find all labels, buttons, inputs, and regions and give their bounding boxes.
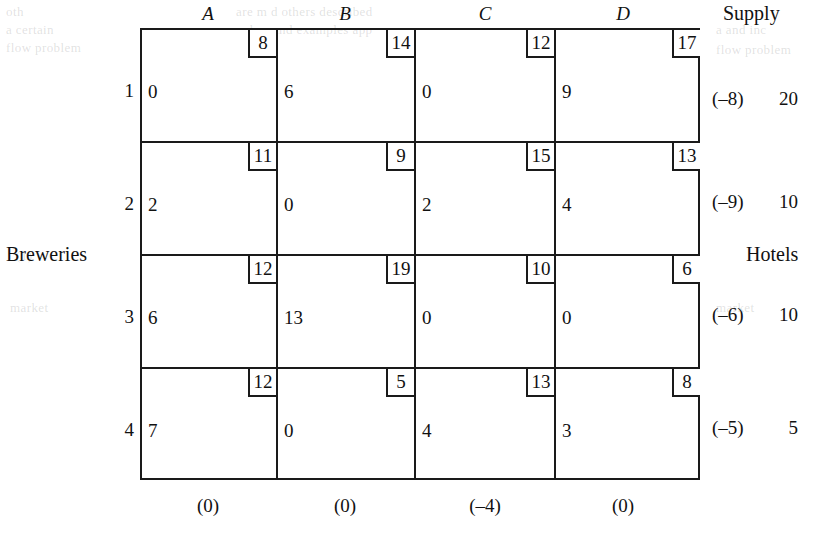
cost-box-1D: 17 <box>672 30 700 58</box>
cost-box-2B: 9 <box>386 143 414 171</box>
tableau-cell-1A[interactable]: 80 <box>142 30 276 141</box>
tableau-cell-3D[interactable]: 60 <box>556 256 700 367</box>
tableau-cell-3B[interactable]: 1913 <box>278 256 414 367</box>
transportation-tableau: 8014612017911290152134126191310060127501… <box>140 28 700 480</box>
cost-box-3B: 19 <box>386 256 414 284</box>
allocation-3C: 0 <box>422 308 432 328</box>
column-dual-C: (–4) <box>450 495 520 517</box>
allocation-3A: 6 <box>148 308 158 328</box>
allocation-4C: 4 <box>422 421 432 441</box>
column-dual-A: (0) <box>178 495 238 517</box>
supply-header: Supply <box>723 2 780 25</box>
supply-value-3: 10 <box>768 304 798 326</box>
tableau-cell-1B[interactable]: 146 <box>278 30 414 141</box>
cost-box-3D: 6 <box>672 256 700 284</box>
tableau-cell-2D[interactable]: 134 <box>556 143 700 254</box>
allocation-4B: 0 <box>284 421 294 441</box>
hotels-label: Hotels <box>746 243 798 266</box>
cost-box-2D: 13 <box>672 143 700 171</box>
supply-value-1: 20 <box>768 88 798 110</box>
column-header-B: B <box>315 3 375 25</box>
allocation-2B: 0 <box>284 195 294 215</box>
column-dual-B: (0) <box>315 495 375 517</box>
cost-box-4A: 12 <box>248 369 276 397</box>
tableau-cell-4B[interactable]: 50 <box>278 369 414 482</box>
supply-value-4: 5 <box>768 417 798 439</box>
cost-box-1A: 8 <box>248 30 276 58</box>
row-dual-4: (–5) <box>712 417 760 439</box>
tableau-cell-2B[interactable]: 90 <box>278 143 414 254</box>
bleedthrough-text: a certain <box>6 22 54 38</box>
supply-value-2: 10 <box>768 191 798 213</box>
tableau-cell-3C[interactable]: 100 <box>416 256 554 367</box>
allocation-1C: 0 <box>422 82 432 102</box>
tableau-cell-2C[interactable]: 152 <box>416 143 554 254</box>
cost-box-4B: 5 <box>386 369 414 397</box>
column-header-A: A <box>178 3 238 25</box>
tableau-cell-1D[interactable]: 179 <box>556 30 700 141</box>
cost-box-1C: 12 <box>526 30 554 58</box>
bleedthrough-text: flow problem <box>6 40 81 56</box>
row-label-3: 3 <box>112 306 134 328</box>
allocation-2A: 2 <box>148 195 158 215</box>
cost-box-3C: 10 <box>526 256 554 284</box>
allocation-4D: 3 <box>562 421 572 441</box>
tableau-cell-4D[interactable]: 83 <box>556 369 700 482</box>
column-header-D: D <box>593 3 653 25</box>
column-dual-D: (0) <box>593 495 653 517</box>
cost-box-4C: 13 <box>526 369 554 397</box>
breweries-label: Breweries <box>6 243 87 266</box>
cost-box-1B: 14 <box>386 30 414 58</box>
allocation-3D: 0 <box>562 308 572 328</box>
tableau-figure: otha certainflow problemare m d others d… <box>0 0 814 533</box>
allocation-1B: 6 <box>284 82 294 102</box>
allocation-1D: 9 <box>562 82 572 102</box>
tableau-cell-3A[interactable]: 126 <box>142 256 276 367</box>
allocation-1A: 0 <box>148 82 158 102</box>
tableau-cell-4C[interactable]: 134 <box>416 369 554 482</box>
row-label-1: 1 <box>112 80 134 102</box>
row-dual-2: (–9) <box>712 191 760 213</box>
row-dual-3: (–6) <box>712 304 760 326</box>
allocation-2D: 4 <box>562 195 572 215</box>
tableau-cell-4A[interactable]: 127 <box>142 369 276 482</box>
bleedthrough-text: market <box>10 300 49 316</box>
cost-box-3A: 12 <box>248 256 276 284</box>
allocation-2C: 2 <box>422 195 432 215</box>
cost-box-2A: 11 <box>248 143 276 171</box>
row-dual-1: (–8) <box>712 88 760 110</box>
row-label-2: 2 <box>112 193 134 215</box>
bleedthrough-text: flow problem <box>716 42 791 58</box>
cost-box-4D: 8 <box>672 369 700 397</box>
column-header-C: C <box>455 3 515 25</box>
allocation-4A: 7 <box>148 421 158 441</box>
allocation-3B: 13 <box>284 308 303 328</box>
cost-box-2C: 15 <box>526 143 554 171</box>
bleedthrough-text: oth <box>6 4 24 20</box>
tableau-cell-1C[interactable]: 120 <box>416 30 554 141</box>
row-label-4: 4 <box>112 419 134 441</box>
tableau-cell-2A[interactable]: 112 <box>142 143 276 254</box>
